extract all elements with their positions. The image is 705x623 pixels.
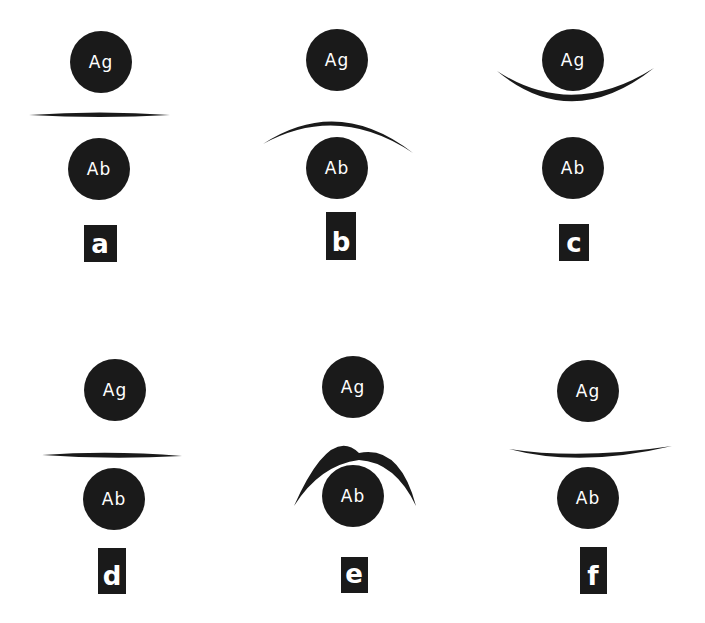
panel-label: d	[103, 561, 122, 591]
antigen-antibody-diagram: Ag Ab a Ag Ab b Ag Ab c Ag Ab d	[0, 0, 705, 623]
separator-line	[42, 453, 182, 458]
ag-label: Ag	[561, 50, 585, 70]
ag-label: Ag	[341, 377, 365, 397]
ab-label: Ab	[341, 486, 365, 506]
ag-label: Ag	[89, 52, 113, 72]
panel-label: b	[332, 227, 351, 257]
ab-label: Ab	[576, 488, 600, 508]
ab-label: Ab	[102, 489, 126, 509]
separator-line	[29, 113, 170, 118]
panel-label: c	[566, 228, 581, 258]
panel-label: a	[91, 229, 109, 259]
ag-label: Ag	[576, 381, 600, 401]
panel-a: Ag Ab a	[29, 31, 170, 262]
panel-label: e	[345, 559, 363, 589]
panel-label: f	[587, 561, 599, 591]
panel-d: Ag Ab d	[42, 359, 182, 594]
ab-label: Ab	[561, 158, 585, 178]
ag-label: Ag	[325, 50, 349, 70]
separator-curve	[509, 446, 672, 458]
panel-f: Ag Ab f	[509, 360, 672, 594]
ab-label: Ab	[87, 159, 111, 179]
ab-label: Ab	[325, 158, 349, 178]
panel-b: Ag Ab b	[263, 29, 413, 260]
panel-c: Ag Ab c	[497, 29, 654, 261]
panel-e: Ag Ab e	[294, 356, 416, 593]
ag-label: Ag	[103, 380, 127, 400]
